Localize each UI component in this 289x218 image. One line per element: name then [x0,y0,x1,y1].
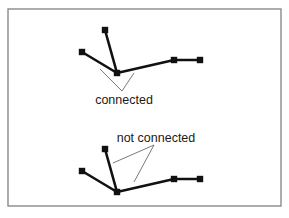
pointer-lines [113,145,154,182]
not-connected-label: not connected [117,131,196,145]
node-left [79,49,85,55]
node-mid-right [171,176,177,182]
node-left [79,168,85,174]
diagram-canvas: connected not connected [0,0,289,218]
pointer-line [134,145,154,182]
node-top [102,146,108,152]
node-hub [114,70,120,76]
node-top [102,27,108,33]
panel-connected: connected [79,27,203,107]
pointer-line [113,145,154,163]
panel-not-connected: not connected [79,131,203,195]
node-far-right [197,176,203,182]
diagram-frame [8,9,281,206]
edge-line [117,179,174,192]
edges [82,30,200,73]
edges [82,149,200,192]
node-hub [114,189,120,195]
edge-line [117,60,174,73]
node-far-right [197,57,203,63]
node-mid-right [171,57,177,63]
pointer-line [122,73,134,91]
connected-label: connected [95,93,153,107]
